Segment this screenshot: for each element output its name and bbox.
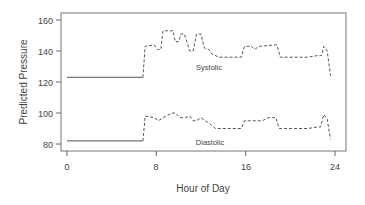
pressure-chart: 160 140 120 100 80 0 8 16 24 Hour of Day… bbox=[0, 0, 365, 205]
systolic-annotation: Systolic bbox=[196, 63, 222, 72]
x-axis-title: Hour of Day bbox=[176, 183, 229, 194]
x-axis bbox=[67, 151, 335, 156]
y-axis bbox=[56, 20, 61, 144]
y-tick-100: 100 bbox=[38, 109, 53, 119]
y-tick-120: 120 bbox=[38, 78, 53, 88]
y-tick-labels: 160 140 120 100 80 bbox=[38, 16, 53, 150]
diastolic-line-dashed bbox=[143, 113, 331, 141]
y-tick-80: 80 bbox=[43, 140, 53, 150]
x-tick-8: 8 bbox=[153, 162, 158, 172]
systolic-line-dashed bbox=[143, 31, 331, 78]
y-axis-title: Predicted Pressure bbox=[18, 39, 29, 124]
x-tick-16: 16 bbox=[241, 162, 251, 172]
y-tick-140: 140 bbox=[38, 47, 53, 57]
y-tick-160: 160 bbox=[38, 16, 53, 26]
x-tick-labels: 0 8 16 24 bbox=[64, 162, 340, 172]
diastolic-annotation: Diastolic bbox=[196, 138, 225, 147]
x-tick-24: 24 bbox=[330, 162, 340, 172]
plot-frame bbox=[61, 13, 346, 151]
series-lines bbox=[67, 31, 331, 141]
x-tick-0: 0 bbox=[64, 162, 69, 172]
